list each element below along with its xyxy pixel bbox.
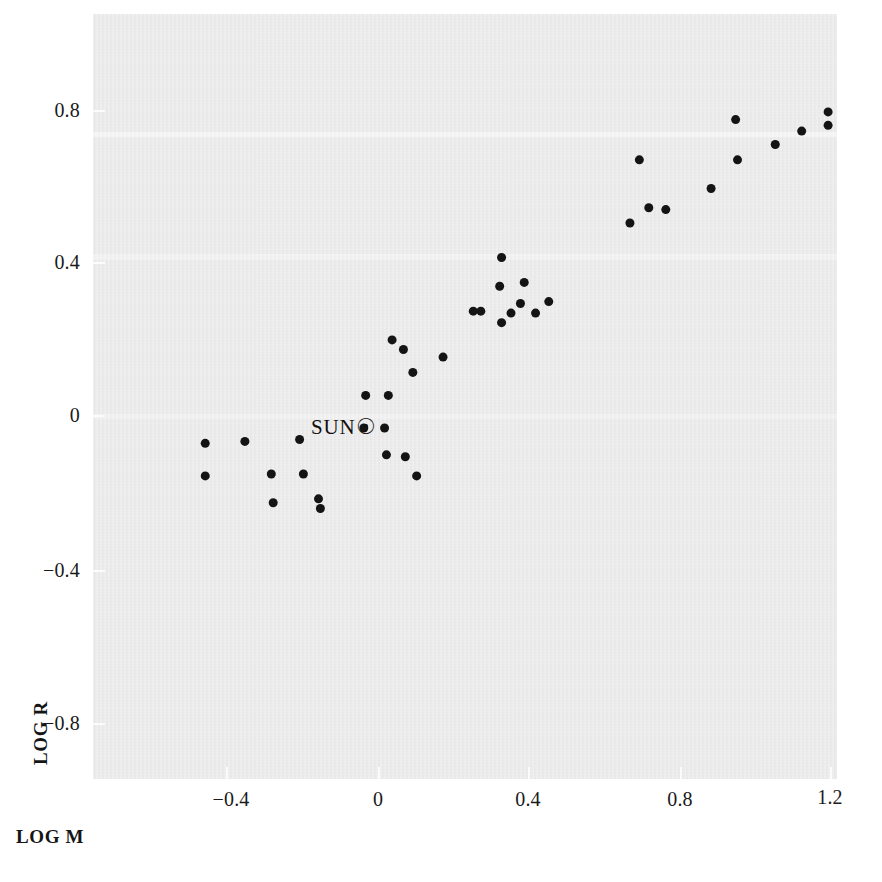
data-point-layer — [93, 14, 837, 779]
data-point — [401, 452, 410, 461]
data-point — [408, 368, 417, 377]
data-point — [201, 471, 210, 480]
x-tick-label: 0.8 — [635, 788, 725, 811]
data-point — [384, 391, 393, 400]
data-point — [625, 219, 634, 228]
x-tick-label: −0.4 — [186, 788, 276, 811]
data-point — [267, 469, 276, 478]
data-point — [476, 307, 485, 316]
scatter-plot-figure: SUN☉ 0.8 0.4 0 −0.4 −0.8 −0.4 0 0.4 0.8 … — [0, 0, 882, 882]
data-point — [644, 203, 653, 212]
data-point — [707, 184, 716, 193]
data-point — [733, 155, 742, 164]
y-axis-title: LOG R — [30, 701, 52, 765]
y-tick-label: −0.4 — [14, 559, 80, 582]
data-point — [380, 423, 389, 432]
data-point — [382, 450, 391, 459]
data-point — [240, 437, 249, 446]
data-point — [295, 435, 304, 444]
data-point — [361, 391, 370, 400]
data-point — [388, 335, 397, 344]
data-point — [399, 345, 408, 354]
data-point — [497, 253, 506, 262]
x-axis-title: LOG M — [16, 826, 84, 848]
x-tick-label: 0.4 — [483, 788, 573, 811]
y-tick-label: 0 — [20, 404, 80, 427]
x-tick-label: 1.2 — [785, 786, 875, 809]
sun-label: SUN — [311, 415, 355, 440]
data-point — [520, 278, 529, 287]
data-point — [299, 469, 308, 478]
sun-annotation: SUN☉ — [311, 415, 377, 440]
data-point — [544, 297, 553, 306]
data-point — [635, 155, 644, 164]
data-point — [495, 282, 504, 291]
data-point — [269, 498, 278, 507]
data-point — [201, 439, 210, 448]
data-point — [731, 115, 740, 124]
data-point — [412, 471, 421, 480]
sun-symbol-icon: ☉ — [356, 416, 377, 438]
data-point — [771, 140, 780, 149]
data-point — [824, 121, 833, 130]
y-tick-label: 0.4 — [20, 251, 80, 274]
data-point — [531, 309, 540, 318]
plot-panel: SUN☉ — [93, 14, 837, 779]
x-tick-label: 0 — [333, 788, 423, 811]
data-point — [439, 353, 448, 362]
data-point — [661, 205, 670, 214]
data-point — [316, 504, 325, 513]
y-tick-label: 0.8 — [20, 99, 80, 122]
data-point — [516, 299, 525, 308]
data-point — [507, 309, 516, 318]
data-point — [824, 107, 833, 116]
data-point — [497, 318, 506, 327]
data-point — [797, 127, 806, 136]
data-point — [314, 494, 323, 503]
